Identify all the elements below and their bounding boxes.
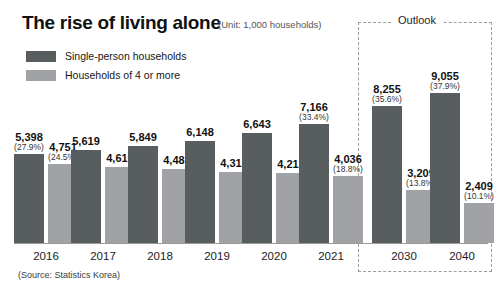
bar-label-group: 5,849 [129, 132, 157, 146]
bar-share: (37.9%) [430, 82, 460, 91]
bar-group-2016: 5,398(27.9%)4,751(24.5%) [14, 154, 78, 243]
bar-rect [299, 124, 329, 243]
bar-rect [71, 150, 101, 243]
bar-value: 5,398 [14, 132, 44, 144]
outlook-label: Outlook [392, 14, 442, 26]
bar-label-group: 6,643 [243, 119, 271, 133]
bar-share: (33.4%) [299, 113, 329, 122]
bar-label-group: 4,036(18.8%) [333, 154, 363, 176]
bar-value: 7,166 [299, 102, 329, 114]
bar-2017-single: 5,619 [71, 150, 101, 243]
bar-label-group: 6,148 [186, 127, 214, 141]
bar-group-2018: 5,8494,481 [128, 146, 192, 243]
chart-container: The rise of living alone (Unit: 1,000 ho… [0, 0, 502, 289]
bar-rect [464, 203, 494, 243]
bar-2019-single: 6,148 [185, 141, 215, 243]
bar-value: 6,148 [186, 127, 214, 139]
x-label-2021: 2021 [299, 250, 363, 262]
bar-rect [128, 146, 158, 243]
bar-rect [242, 133, 272, 243]
x-label-2018: 2018 [128, 250, 192, 262]
bar-label-group: 8,255(35.6%) [372, 84, 402, 106]
bar-value: 9,055 [430, 71, 460, 83]
bar-label-group: 7,166(33.4%) [299, 102, 329, 124]
plot-area: Outlook 5,398(27.9%)4,751(24.5%)5,6194,6… [0, 0, 502, 289]
bar-value: 2,409 [464, 181, 494, 193]
bar-2030-single: 8,255(35.6%) [372, 106, 402, 243]
bar-group-2017: 5,6194,616 [71, 150, 135, 243]
bar-rect [14, 154, 44, 243]
bar-group-2040: 9,055(37.9%)2,409(10.1%) [430, 93, 494, 243]
bar-rect [185, 141, 215, 243]
bar-value: 8,255 [372, 84, 402, 96]
bar-share: (27.9%) [14, 143, 44, 152]
bar-group-2019: 6,1484,315 [185, 141, 249, 243]
bar-share: (10.1%) [464, 192, 494, 201]
bar-2016-single: 5,398(27.9%) [14, 154, 44, 243]
source-note: (Source: Statistics Korea) [18, 270, 120, 280]
bar-2040-single: 9,055(37.9%) [430, 93, 460, 243]
x-label-2040: 2040 [430, 250, 494, 262]
bar-value: 5,619 [72, 136, 100, 148]
bar-label-group: 5,398(27.9%) [14, 132, 44, 154]
bar-rect [430, 93, 460, 243]
bar-value: 6,643 [243, 119, 271, 131]
bar-2021-large: 4,036(18.8%) [333, 176, 363, 243]
bar-2020-single: 6,643 [242, 133, 272, 243]
bar-label-group: 2,409(10.1%) [464, 181, 494, 203]
bar-group-2020: 6,6434,218 [242, 133, 306, 243]
x-label-2016: 2016 [14, 250, 78, 262]
bar-group-2021: 7,166(33.4%)4,036(18.8%) [299, 124, 363, 243]
bar-value: 4,036 [333, 154, 363, 166]
bar-label-group: 5,619 [72, 136, 100, 150]
bar-2021-single: 7,166(33.4%) [299, 124, 329, 243]
x-label-2017: 2017 [71, 250, 135, 262]
x-axis-line [14, 243, 488, 244]
bar-label-group: 9,055(37.9%) [430, 71, 460, 93]
x-label-2020: 2020 [242, 250, 306, 262]
bar-share: (18.8%) [333, 165, 363, 174]
bar-rect [372, 106, 402, 243]
x-label-2030: 2030 [372, 250, 436, 262]
bar-share: (35.6%) [372, 95, 402, 104]
bar-rect [333, 176, 363, 243]
bar-group-2030: 8,255(35.6%)3,209(13.8%) [372, 106, 436, 243]
x-label-2019: 2019 [185, 250, 249, 262]
bar-2018-single: 5,849 [128, 146, 158, 243]
bar-value: 5,849 [129, 132, 157, 144]
bar-2040-large: 2,409(10.1%) [464, 203, 494, 243]
